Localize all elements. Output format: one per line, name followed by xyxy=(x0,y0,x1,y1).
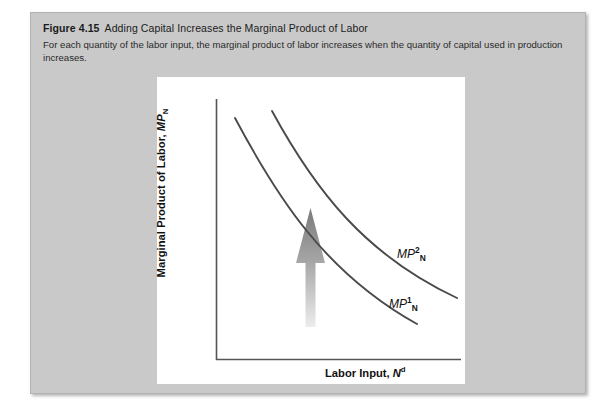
curve-label-mp-n-2-subscript: N xyxy=(420,253,426,263)
chart-panel: Marginal Product of Labor, MPN Labor Inp… xyxy=(157,77,465,384)
curve-label-mp-n-1: MP1N xyxy=(389,295,418,313)
upward-shift-arrow-icon xyxy=(296,208,325,327)
curve-label-mp-n-1-subscript: N xyxy=(412,303,418,313)
curve-label-mp-n-1-variable: MP xyxy=(389,297,407,311)
figure-box: Figure 4.15Adding Capital Increases the … xyxy=(30,12,586,394)
figure-caption-block: Figure 4.15Adding Capital Increases the … xyxy=(43,21,571,64)
curve-mp-n-2 xyxy=(272,111,457,298)
curve-mp-n-1 xyxy=(235,118,417,324)
curve-label-mp-n-2: MP2N xyxy=(397,245,426,263)
figure-title: Figure 4.15Adding Capital Increases the … xyxy=(43,21,571,35)
chart-plot-area xyxy=(157,77,465,384)
figure-caption-text: For each quantity of the labor input, th… xyxy=(43,38,567,65)
figure-number: Figure 4.15 xyxy=(43,22,100,34)
curve-label-mp-n-2-variable: MP xyxy=(397,247,415,261)
figure-title-text: Adding Capital Increases the Marginal Pr… xyxy=(105,22,368,34)
